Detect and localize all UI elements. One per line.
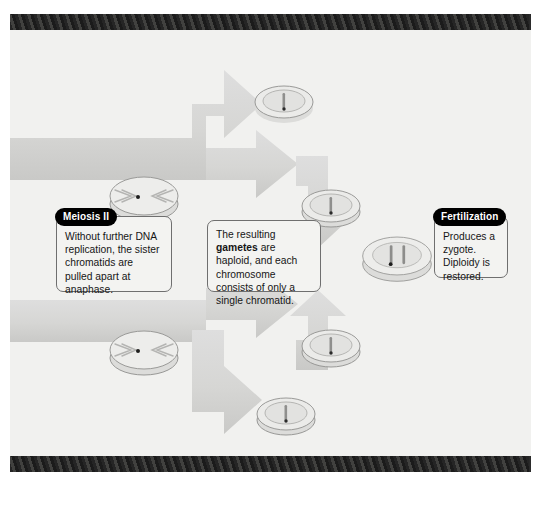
cell-gamete-top: [251, 78, 317, 126]
gametes-keyword: gametes: [216, 242, 258, 253]
page-frame-bottom-band: [10, 456, 531, 472]
callout-tab-fertilization: Fertilization: [433, 208, 506, 226]
cell-zygote: [358, 228, 436, 284]
page-frame-top-band: [10, 14, 531, 30]
callout-tab-meiosis-ii: Meiosis II: [55, 208, 117, 226]
callout-body-gametes: The resulting gametes are haploid, and e…: [216, 228, 312, 307]
cell-anaphase-lower: [105, 322, 183, 378]
callout-body-fertilization: Produces a zygote. Diploidy is restored.: [443, 230, 499, 283]
cell-gamete-lower-mid: [298, 322, 364, 370]
callout-gametes: The resulting gametes are haploid, and e…: [207, 220, 321, 292]
callout-body-meiosis-ii: Without further DNA replication, the sis…: [65, 230, 163, 296]
diagram-canvas: Meiosis II Without further DNA replicati…: [10, 30, 531, 456]
callout-meiosis-ii: Meiosis II Without further DNA replicati…: [56, 216, 172, 292]
gametes-text-prefix: The resulting: [216, 229, 276, 240]
callout-fertilization: Fertilization Produces a zygote. Diploid…: [434, 216, 508, 278]
cell-gamete-bottom: [253, 390, 319, 438]
meiosis-figure: Meiosis II Without further DNA replicati…: [0, 0, 541, 513]
